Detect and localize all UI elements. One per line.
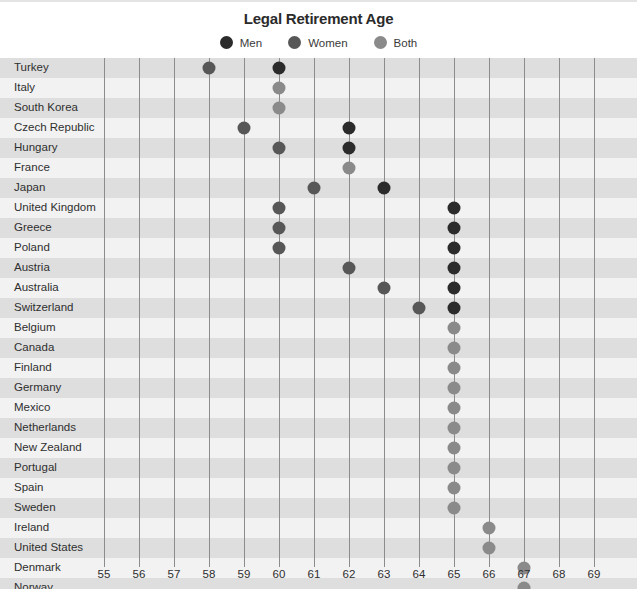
data-point-women[interactable] — [378, 282, 391, 295]
data-point-both[interactable] — [448, 362, 461, 375]
data-point-both[interactable] — [273, 82, 286, 95]
chart-legend: MenWomenBoth — [0, 36, 637, 49]
tick-mark-56 — [139, 558, 140, 567]
data-point-both[interactable] — [448, 322, 461, 335]
circle-icon — [220, 36, 233, 49]
legend-item-women[interactable]: Women — [288, 36, 347, 49]
data-point-both[interactable] — [448, 482, 461, 495]
data-point-men[interactable] — [343, 142, 356, 155]
data-point-both[interactable] — [483, 522, 496, 535]
data-point-men[interactable] — [448, 302, 461, 315]
data-point-women[interactable] — [273, 222, 286, 235]
data-point-women[interactable] — [203, 62, 216, 75]
data-point-women[interactable] — [413, 302, 426, 315]
tick-mark-57 — [174, 558, 175, 567]
data-point-both[interactable] — [343, 162, 356, 175]
tick-label: 55 — [98, 569, 111, 581]
data-point-both[interactable] — [448, 422, 461, 435]
data-point-men[interactable] — [448, 262, 461, 275]
data-point-women[interactable] — [273, 242, 286, 255]
legend-label: Both — [394, 37, 418, 49]
data-point-men[interactable] — [273, 62, 286, 75]
data-point-both[interactable] — [448, 342, 461, 355]
data-point-both[interactable] — [273, 102, 286, 115]
tick-label: 68 — [553, 569, 566, 581]
tick-label: 59 — [238, 569, 251, 581]
legend-item-men[interactable]: Men — [220, 36, 262, 49]
tick-label: 65 — [448, 569, 461, 581]
data-points-layer — [0, 58, 637, 558]
legend-label: Men — [240, 37, 262, 49]
tick-mark-68 — [559, 558, 560, 567]
tick-mark-69 — [594, 558, 595, 567]
data-point-men[interactable] — [448, 282, 461, 295]
data-point-men[interactable] — [448, 222, 461, 235]
plot-area: TurkeyItalySouth KoreaCzech RepublicHung… — [0, 58, 637, 558]
tick-label: 58 — [203, 569, 216, 581]
x-axis: 555657585960616263646566676869 — [0, 558, 637, 589]
data-point-both[interactable] — [448, 402, 461, 415]
tick-mark-55 — [104, 558, 105, 567]
tick-label: 63 — [378, 569, 391, 581]
data-point-women[interactable] — [238, 122, 251, 135]
data-point-both[interactable] — [448, 462, 461, 475]
data-point-women[interactable] — [343, 262, 356, 275]
tick-mark-60 — [279, 558, 280, 567]
data-point-women[interactable] — [308, 182, 321, 195]
circle-icon — [288, 36, 301, 49]
data-point-women[interactable] — [273, 142, 286, 155]
chart-container: Legal Retirement Age MenWomenBoth Turkey… — [0, 0, 637, 589]
legend-label: Women — [308, 37, 347, 49]
tick-mark-61 — [314, 558, 315, 567]
tick-label: 67 — [518, 569, 531, 581]
tick-label: 62 — [343, 569, 356, 581]
data-point-men[interactable] — [448, 242, 461, 255]
data-point-both[interactable] — [448, 442, 461, 455]
tick-label: 66 — [483, 569, 496, 581]
tick-mark-64 — [419, 558, 420, 567]
tick-label: 56 — [133, 569, 146, 581]
data-point-both[interactable] — [448, 502, 461, 515]
tick-mark-58 — [209, 558, 210, 567]
tick-label: 60 — [273, 569, 286, 581]
tick-label: 64 — [413, 569, 426, 581]
tick-label: 69 — [588, 569, 601, 581]
tick-mark-66 — [489, 558, 490, 567]
chart-title: Legal Retirement Age — [0, 10, 637, 27]
data-point-both[interactable] — [483, 542, 496, 555]
tick-mark-62 — [349, 558, 350, 567]
legend-item-both[interactable]: Both — [374, 36, 418, 49]
tick-mark-59 — [244, 558, 245, 567]
tick-label: 61 — [308, 569, 321, 581]
tick-label: 57 — [168, 569, 181, 581]
data-point-men[interactable] — [448, 202, 461, 215]
data-point-both[interactable] — [448, 382, 461, 395]
top-divider — [0, 0, 637, 2]
circle-icon — [374, 36, 387, 49]
data-point-women[interactable] — [273, 202, 286, 215]
tick-mark-65 — [454, 558, 455, 567]
data-point-men[interactable] — [343, 122, 356, 135]
tick-mark-67 — [524, 558, 525, 567]
data-point-men[interactable] — [378, 182, 391, 195]
tick-mark-63 — [384, 558, 385, 567]
